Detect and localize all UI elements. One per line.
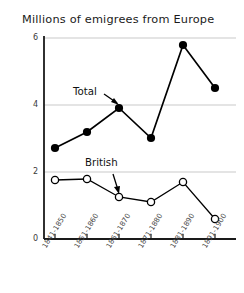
data-point-total-4 [147, 134, 155, 142]
data-point-british-3 [115, 193, 122, 200]
chart-container: Millions of emigrees from Europe 6 4 2 0 [0, 0, 244, 293]
series-label-british: British [84, 157, 119, 168]
data-point-british-1 [51, 176, 58, 183]
annotation-arrow-british [113, 174, 120, 194]
data-point-british-2 [83, 175, 90, 182]
data-point-total-5 [179, 41, 187, 49]
series-label-total: Total [72, 86, 98, 97]
data-point-total-1 [51, 144, 59, 152]
data-point-british-5 [179, 178, 186, 185]
data-point-total-6 [211, 84, 219, 92]
data-point-british-4 [147, 198, 154, 205]
data-point-total-2 [83, 128, 91, 136]
data-point-total-3 [115, 104, 123, 112]
annotation-arrow-total [104, 94, 119, 105]
